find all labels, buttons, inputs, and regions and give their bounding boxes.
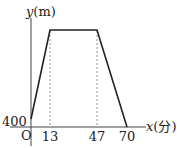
x-tick-47: 47 <box>89 129 106 144</box>
x-axis-label: x(分) <box>146 119 177 134</box>
y-tick-400: 400 <box>2 114 27 129</box>
origin-label: O <box>21 128 32 143</box>
chart: y(m) x(分) 400 O 13 47 70 <box>0 0 177 148</box>
y-axis-label: y(m) <box>25 4 56 19</box>
data-line <box>31 30 127 127</box>
x-tick-70: 70 <box>119 129 136 144</box>
x-tick-13: 13 <box>42 129 59 144</box>
